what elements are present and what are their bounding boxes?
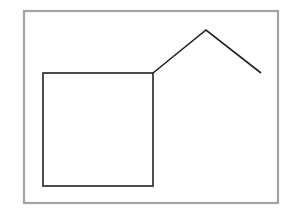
drawing-canvas [0,0,292,215]
drawing-surface [0,0,292,215]
